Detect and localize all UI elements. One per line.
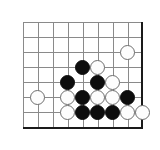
white-stone-c7r6[interactable] [105,90,120,105]
black-stone-c7r7[interactable] [105,105,120,120]
black-stone-c5r7[interactable] [75,105,90,120]
board-edge-bottom [23,127,144,129]
grid-line-horizontal-2 [23,37,142,38]
black-stone-c8r6[interactable] [120,90,135,105]
white-stone-c6r6[interactable] [90,90,105,105]
black-stone-c5r6[interactable] [75,90,90,105]
black-stone-c6r5[interactable] [90,75,105,90]
go-board-diagram [0,0,160,150]
white-stone-c7r5[interactable] [105,75,120,90]
white-stone-c6r4[interactable] [90,60,105,75]
white-stone-c8r7[interactable] [120,105,135,120]
black-stone-c6r7[interactable] [90,105,105,120]
black-stone-c5r4[interactable] [75,60,90,75]
black-stone-c4r5[interactable] [60,75,75,90]
white-stone-offboard-r7[interactable] [135,105,150,120]
white-stone-c2r6[interactable] [30,90,45,105]
grid-line-horizontal-5 [23,82,142,83]
white-stone-c4r7[interactable] [60,105,75,120]
grid-line-horizontal-1 [23,22,142,23]
white-stone-c8r3[interactable] [120,45,135,60]
white-stone-c4r6[interactable] [60,90,75,105]
